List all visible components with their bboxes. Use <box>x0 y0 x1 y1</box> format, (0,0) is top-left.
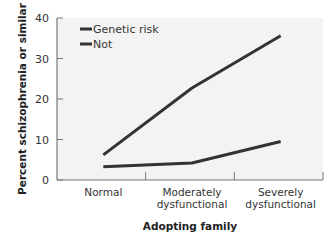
y-tick-label: 40 <box>35 12 49 25</box>
line-chart: 010203040 NormalModeratelydysfunctionalS… <box>0 0 336 243</box>
x-tick-label: Severelydysfunctional <box>245 186 316 210</box>
y-tick-label: 20 <box>35 93 49 106</box>
y-tick-label: 0 <box>42 174 49 187</box>
legend-label: Not <box>93 38 113 51</box>
y-axis-title: Percent schizophrenia or similar <box>16 2 28 195</box>
x-axis-title: Adopting family <box>143 220 237 232</box>
x-tick-label: Moderatelydysfunctional <box>157 186 228 210</box>
x-tick-label: Normal <box>84 186 122 198</box>
y-tick-label: 10 <box>35 134 49 147</box>
legend-label: Genetic risk <box>93 23 159 36</box>
y-tick-label: 30 <box>35 53 49 66</box>
